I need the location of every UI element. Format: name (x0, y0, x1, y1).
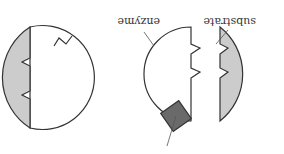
bound-substrate-shape (2, 27, 30, 128)
panel-enzyme-substrate-inhibitor: enzyme substrate (117, 15, 256, 146)
enzyme-diagram: enzyme substrate (0, 0, 284, 154)
enzyme-leader-line (144, 32, 154, 46)
enzyme-label: enzyme (117, 15, 160, 28)
panel-enzyme-substrate-bound (2, 26, 94, 130)
diagram-canvas: enzyme substrate (0, 0, 284, 154)
substrate-shape (220, 27, 243, 121)
substrate-label: substrate (203, 15, 256, 28)
